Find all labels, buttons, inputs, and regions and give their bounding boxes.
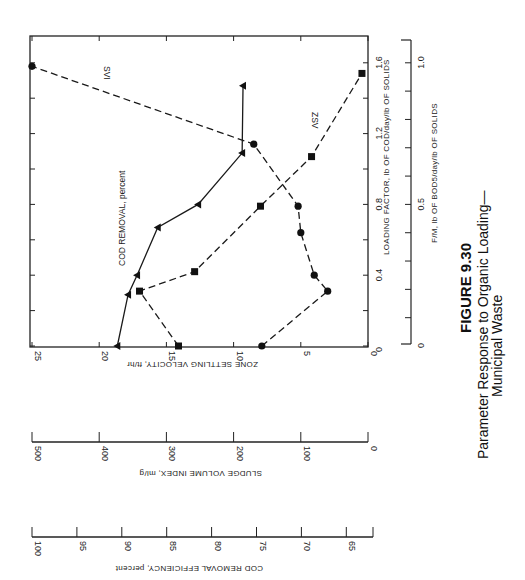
cod-tick-label: 100 [33, 541, 43, 556]
circle-marker-icon [297, 229, 304, 236]
circle-marker-icon [28, 63, 35, 70]
square-marker-icon [175, 343, 182, 350]
zsv-tick-label: 15 [167, 351, 177, 361]
fm-tick-label: 0 [416, 343, 426, 348]
circle-series-line [32, 66, 328, 346]
fm-tick-label: 1.0 [416, 56, 426, 69]
square-marker-icon [257, 203, 264, 210]
cod-tick-label: 85 [168, 541, 178, 551]
circle-marker-icon [250, 141, 257, 148]
zsv-axis-title: ZONE SETTLING VELOCITY, ft/hr [127, 360, 258, 369]
square-marker-icon [358, 70, 365, 77]
cod-tick-label: 65 [347, 541, 357, 551]
svi-tick-label: 500 [33, 446, 43, 461]
loading-tick-label: 0.4 [374, 269, 384, 282]
svi-tick-label: 300 [167, 446, 177, 461]
fm-axis-title: F/M, lb OF BOD5/day/lb OF SOLIDS [430, 103, 439, 243]
cod-tick-label: 75 [258, 541, 268, 551]
cod-efficiency-axis-title: COD REMOVAL EFFICIENCY, percent [115, 564, 263, 573]
cod-removal-series-label: COD REMOVAL, percent [117, 170, 127, 266]
circle-marker-icon [258, 342, 265, 349]
loading-tick-label: 0 [374, 347, 384, 352]
figure-number: FIGURE 9.30 [457, 243, 474, 333]
square-marker-icon [308, 153, 315, 160]
triangle-marker-icon [113, 342, 120, 350]
svi-tick-label: 200 [235, 446, 245, 461]
square-marker-icon [136, 288, 143, 295]
svi-tick-label: 400 [100, 446, 110, 461]
svi-axis: 5004003002001000 [32, 432, 379, 461]
svi-series-label: SVI [102, 66, 112, 80]
fm-axis: 00.51.0 [401, 40, 426, 348]
zsv-tick-label: 5 [302, 351, 312, 356]
cod-tick-label: 95 [78, 541, 88, 551]
svi-tick-label: 0 [369, 446, 379, 451]
zsv-tick-label: 20 [100, 351, 110, 361]
figure-canvas: 2520151050 00.40.81.21.6 00.51.0 5004003… [0, 0, 525, 580]
cod-efficiency-axis: 10095908580757065 [32, 527, 373, 556]
fm-tick-label: 0.5 [416, 198, 426, 211]
cod-tick-label: 70 [302, 541, 312, 551]
zsv-tick-label: 25 [33, 351, 43, 361]
zsv-series-label: ZSV [310, 112, 320, 129]
caption-line-2: Municipal Waste [489, 295, 505, 397]
zsv-tick-label: 10 [235, 351, 245, 361]
loading-factor-axis-title: LOADING FACTOR, lb OF COD/day/lb OF SOLI… [382, 59, 391, 255]
series-layer [28, 63, 365, 350]
triangle-marker-icon [194, 200, 201, 208]
zsv-axis: 2520151050 [32, 342, 379, 361]
cod-tick-label: 90 [123, 541, 133, 551]
cod-tick-label: 80 [213, 541, 223, 551]
svi-tick-label: 100 [302, 446, 312, 461]
circle-marker-icon [295, 203, 302, 210]
circle-marker-icon [311, 272, 318, 279]
svi-axis-title: SLUDGE VOLUME INDEX, ml/g [139, 469, 262, 478]
square-series-line [140, 73, 362, 346]
triangle-marker-icon [154, 223, 161, 231]
triangle-series-line [117, 86, 243, 346]
circle-marker-icon [324, 288, 331, 295]
triangle-marker-icon [133, 271, 140, 279]
square-marker-icon [191, 268, 198, 275]
